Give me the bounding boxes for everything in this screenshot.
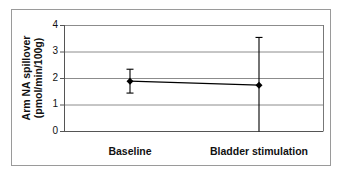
x-category-baseline: Baseline: [108, 145, 151, 157]
data-point-diamond-marker: [256, 82, 263, 89]
series-line: [130, 81, 259, 85]
x-category-bladder-stimulation: Bladder stimulation: [210, 145, 308, 157]
gridlines: [64, 26, 323, 106]
